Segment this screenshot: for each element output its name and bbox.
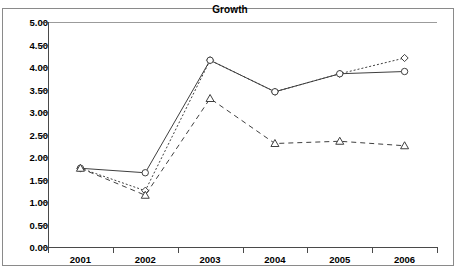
data-point-marker (272, 89, 278, 95)
data-point-marker (401, 68, 407, 74)
data-point-marker (206, 95, 214, 102)
data-point-marker (271, 140, 279, 147)
series-line-series-2 (80, 60, 404, 173)
data-point-marker (337, 71, 343, 77)
data-point-marker (142, 170, 148, 176)
series-layer (0, 0, 460, 275)
data-point-marker (401, 54, 408, 61)
data-point-marker (141, 191, 149, 198)
series-line-series-1 (80, 58, 404, 191)
growth-line-chart: Growth 0.000.501.001.502.002.503.003.504… (0, 0, 460, 275)
data-point-marker (401, 142, 409, 149)
series-line-series-3 (80, 99, 404, 196)
data-point-marker (336, 137, 344, 144)
data-point-marker (207, 57, 213, 63)
